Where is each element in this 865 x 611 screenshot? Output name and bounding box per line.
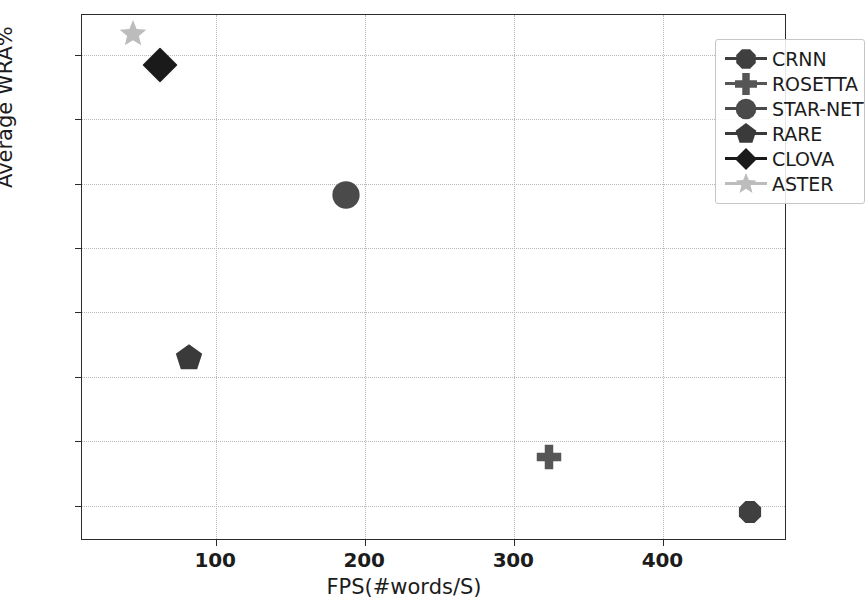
gridline-horizontal <box>82 377 785 378</box>
y-tick-mark <box>75 377 82 378</box>
x-tick-label: 200 <box>319 548 409 572</box>
gridline-vertical <box>663 15 664 539</box>
legend-label: ROSETTA <box>768 73 858 95</box>
y-tick-mark <box>75 184 82 185</box>
y-tick-mark <box>75 441 82 442</box>
legend-label: STAR-NET <box>768 98 864 120</box>
y-tick-mark <box>75 506 82 507</box>
x-tick-mark <box>663 539 664 546</box>
y-tick-mark <box>75 312 82 313</box>
legend-marker-plus-icon <box>724 72 768 96</box>
legend-glyph <box>735 173 757 195</box>
legend-glyph <box>735 48 757 70</box>
data-point-rosetta <box>536 445 561 470</box>
gridline-vertical <box>514 15 515 539</box>
x-tick-label: 100 <box>170 548 260 572</box>
x-axis-title: FPS(#words/S) <box>0 575 808 599</box>
legend-marker-star-icon <box>724 172 768 196</box>
x-tick-mark <box>514 539 515 546</box>
x-tick-mark <box>365 539 366 546</box>
y-axis-title: Average WRA% <box>0 26 17 188</box>
legend-item-aster[interactable]: ASTER <box>724 171 856 196</box>
data-point-crnn <box>737 500 762 525</box>
legend-label: ASTER <box>768 173 833 195</box>
plot-area: CRNNROSETTASTAR-NETRARECLOVAASTER <box>81 14 786 540</box>
x-tick-label: 300 <box>468 548 558 572</box>
data-point-clova <box>142 47 177 82</box>
legend-label: RARE <box>768 123 822 145</box>
legend-item-star-net[interactable]: STAR-NET <box>724 96 856 121</box>
legend-item-rosetta[interactable]: ROSETTA <box>724 71 856 96</box>
gridline-horizontal <box>82 441 785 442</box>
data-point-aster <box>119 20 147 48</box>
x-tick-label: 400 <box>617 548 707 572</box>
y-tick-mark <box>75 248 82 249</box>
legend-marker-octagon-icon <box>724 47 768 71</box>
legend-marker-diamond-icon <box>724 147 768 171</box>
legend-glyph <box>735 98 757 120</box>
legend-marker-pentagon-icon <box>724 122 768 146</box>
legend-item-rare[interactable]: RARE <box>724 121 856 146</box>
legend-label: CLOVA <box>768 148 834 170</box>
gridline-horizontal <box>82 312 785 313</box>
legend-glyph <box>735 123 757 145</box>
legend-glyph <box>735 148 757 170</box>
gridline-horizontal <box>82 119 785 120</box>
x-tick-mark <box>216 539 217 546</box>
gridline-horizontal <box>82 184 785 185</box>
legend-item-crnn[interactable]: CRNN <box>724 46 856 71</box>
gridline-horizontal <box>82 506 785 507</box>
gridline-vertical <box>216 15 217 539</box>
gridline-horizontal <box>82 55 785 56</box>
gridline-horizontal <box>82 248 785 249</box>
chart-legend: CRNNROSETTASTAR-NETRARECLOVAASTER <box>715 39 865 204</box>
data-point-star-net <box>331 180 360 209</box>
y-tick-mark <box>75 119 82 120</box>
legend-marker-circle-icon <box>724 97 768 121</box>
legend-label: CRNN <box>768 48 827 70</box>
gridline-vertical <box>365 15 366 539</box>
data-point-rare <box>175 344 203 372</box>
y-tick-mark <box>75 55 82 56</box>
legend-item-clova[interactable]: CLOVA <box>724 146 856 171</box>
legend-glyph <box>735 73 757 95</box>
